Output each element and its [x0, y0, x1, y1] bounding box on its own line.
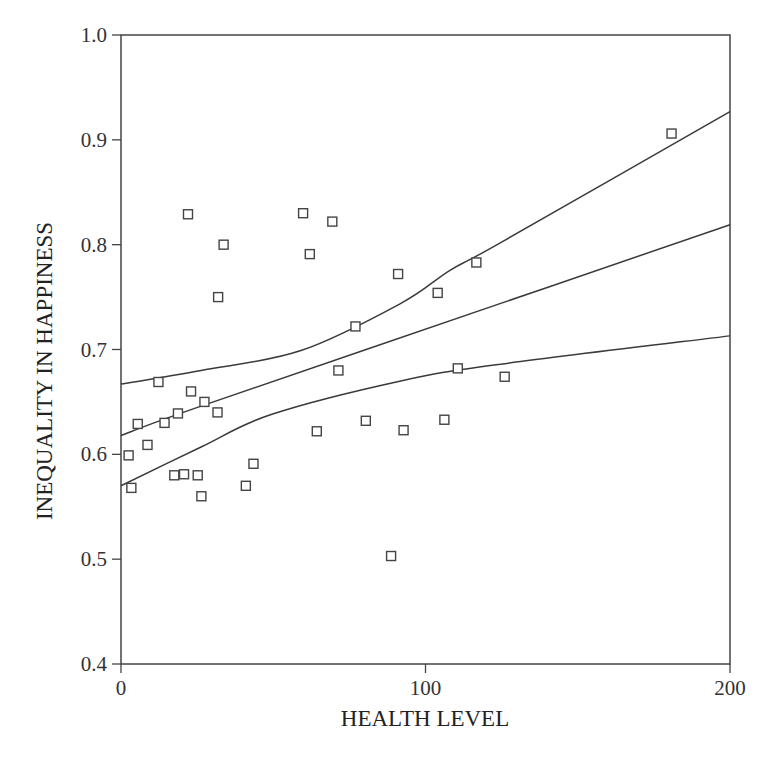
data-point-square [193, 471, 202, 480]
data-point-square [299, 209, 308, 218]
data-point-square [180, 470, 189, 479]
plot-border [121, 35, 730, 664]
data-point-square [399, 426, 408, 435]
x-tick-label: 100 [410, 676, 442, 700]
data-point-square [143, 440, 152, 449]
data-point-square [249, 459, 258, 468]
y-tick-label: 0.8 [81, 233, 107, 257]
data-point-square [219, 240, 228, 249]
x-axis-title: HEALTH LEVEL [341, 706, 509, 731]
data-point-square [440, 415, 449, 424]
data-point-square [124, 451, 133, 460]
data-point-square [170, 471, 179, 480]
data-point-square [433, 288, 442, 297]
data-point-square [213, 408, 222, 417]
data-point-square [200, 397, 209, 406]
data-point-square [154, 377, 163, 386]
data-point-square [351, 322, 360, 331]
x-axis: 0100200 [116, 664, 746, 700]
data-point-square [133, 419, 142, 428]
data-point-square [305, 250, 314, 259]
data-point-square [241, 481, 250, 490]
y-tick-label: 0.6 [81, 442, 107, 466]
y-tick-label: 0.5 [81, 547, 107, 571]
data-point-square [197, 492, 206, 501]
data-point-square [214, 293, 223, 302]
data-points [124, 129, 676, 560]
plot-frame [121, 35, 730, 664]
data-point-square [394, 270, 403, 279]
data-point-square [187, 387, 196, 396]
data-point-square [453, 364, 462, 373]
data-point-square [160, 418, 169, 427]
regression-curves [121, 112, 730, 486]
data-point-square [183, 210, 192, 219]
data-point-square [334, 366, 343, 375]
data-point-square [667, 129, 676, 138]
y-axis-title: INEQUALITY IN HAPPINESS [32, 222, 57, 520]
y-axis: 0.40.50.60.70.80.91.0 [81, 23, 121, 676]
scatter-chart: 0.40.50.60.70.80.91.0 0100200 HEALTH LEV… [0, 0, 777, 760]
fit-line [121, 225, 730, 436]
data-point-square [361, 416, 370, 425]
upper-band-curve [121, 112, 730, 385]
data-point-square [328, 217, 337, 226]
x-tick-label: 0 [116, 676, 127, 700]
y-tick-label: 1.0 [81, 23, 107, 47]
y-tick-label: 0.9 [81, 128, 107, 152]
data-point-square [500, 372, 509, 381]
data-point-square [173, 409, 182, 418]
data-point-square [472, 258, 481, 267]
data-point-square [387, 552, 396, 561]
y-tick-label: 0.4 [81, 652, 108, 676]
data-point-square [312, 427, 321, 436]
data-point-square [127, 483, 136, 492]
x-tick-label: 200 [714, 676, 746, 700]
y-tick-label: 0.7 [81, 338, 107, 362]
